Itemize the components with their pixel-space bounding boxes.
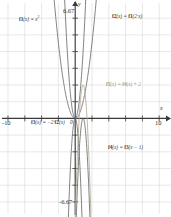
x-axis-min-label: -10	[2, 120, 11, 126]
x-axis-title: x	[160, 105, 163, 111]
curve-label-f1: f1(x) = x2	[19, 16, 39, 22]
curve-f5	[74, 85, 93, 217]
curve-label-f3-body: (x) = −2·	[35, 119, 54, 125]
curve-label-f4-body: (x) =	[112, 144, 124, 150]
curve-label-f5-body2: (x) + 2	[127, 81, 141, 87]
curve-label-f4: f4(x) = f3(x − 1)	[108, 145, 143, 150]
curve-label-f1-body: (x) = x	[23, 16, 37, 22]
y-axis-title: y	[78, 1, 81, 7]
curve-label-f2-body2: (2·x)	[133, 13, 143, 19]
curve-label-f3-body2: (x)	[59, 119, 65, 125]
curve-label-f2: f2(x) = f1(2·x)	[112, 14, 142, 19]
curve-label-f2-body: (x) =	[116, 13, 128, 19]
origin-label: 0	[70, 120, 73, 125]
grid-lines	[0, 3, 171, 214]
x-axis-arrow	[166, 115, 171, 121]
x-axis-max-label: 10	[155, 120, 161, 126]
plot-svg	[0, 0, 171, 217]
curve-label-f5: f5(x) = f4(x) + 2	[106, 82, 141, 87]
y-axis-min-label: -6.67	[59, 199, 72, 205]
graph-canvas[interactable]: f1(x) = x2 f2(x) = f1(2·x) f5(x) = f4(x)…	[0, 0, 171, 217]
curve-label-f4-body2: (x − 1)	[129, 144, 143, 150]
curve-label-f5-body: (x) =	[110, 81, 122, 87]
y-axis-max-label: 6.67	[63, 8, 74, 14]
curve-label-f1-exponent: 2	[37, 15, 39, 19]
curve-label-f3: f3(x) = −2·f2(x)	[31, 120, 65, 125]
